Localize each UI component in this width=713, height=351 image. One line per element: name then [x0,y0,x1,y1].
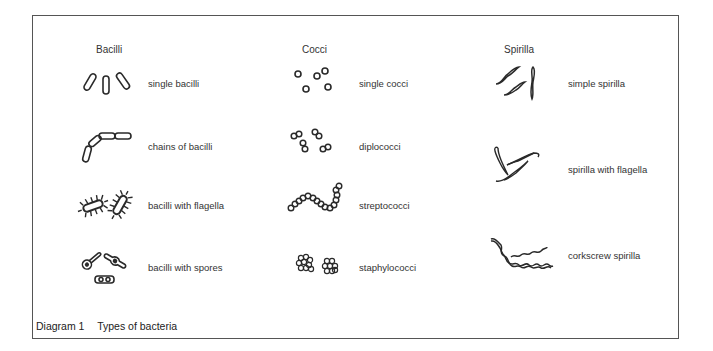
simple-spirilla-icon [494,64,542,104]
label-single-bacilli: single bacilli [148,78,199,89]
label-bacilli-with-spores: bacilli with spores [148,262,222,273]
flagellated-spirilla-icon [494,145,549,195]
staphylococci-icon [295,252,345,282]
label-streptococci: streptococci [359,200,410,211]
label-diplococci: diplococci [359,141,401,152]
caption-number: Diagram 1 [36,320,84,332]
label-spirilla-with-flagella: spirilla with flagella [568,164,647,175]
streptococci-icon [286,183,346,218]
spore-bacilli-icon [80,248,135,288]
single-bacilli-icon [82,68,132,98]
label-chains-of-bacilli: chains of bacilli [148,141,212,152]
column-title-spirilla: Spirilla [504,44,534,55]
flagellated-bacilli-icon [76,190,136,222]
chain-bacilli-icon [78,130,138,165]
label-corkscrew-spirilla: corkscrew spirilla [568,250,640,261]
diagram-frame [32,15,679,339]
label-bacilli-with-flagella: bacilli with flagella [148,200,224,211]
corkscrew-spirilla-icon [489,235,557,275]
figure-caption: Diagram 1 Types of bacteria [36,320,177,332]
single-cocci-icon [290,66,338,100]
label-single-cocci: single cocci [359,78,408,89]
label-simple-spirilla: simple spirilla [568,78,625,89]
column-title-bacilli: Bacilli [96,44,122,55]
caption-title: Types of bacteria [97,320,177,332]
label-staphylococci: staphylococci [359,262,416,273]
column-title-cocci: Cocci [302,44,327,55]
diplococci-icon [289,128,341,160]
